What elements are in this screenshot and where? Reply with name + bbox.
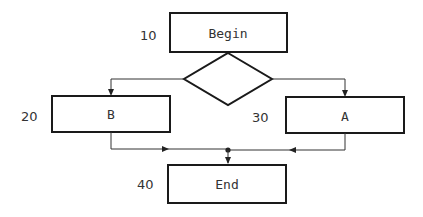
end-node: End	[168, 165, 286, 203]
flowchart: Begin 10 B 20 A 30 End 40	[0, 0, 423, 217]
arrow-head-icon	[162, 146, 169, 152]
step-number-20: 20	[21, 109, 38, 124]
decision-diamond	[184, 53, 272, 105]
a-node: A	[286, 97, 404, 133]
b-label: B	[107, 107, 115, 122]
arrow-head-icon	[289, 147, 296, 153]
arrow-head-icon	[342, 90, 348, 97]
step-number-40: 40	[137, 177, 154, 192]
begin-node: Begin	[170, 13, 287, 52]
edge-a-to-merge	[228, 133, 345, 150]
arrow-head-icon	[108, 89, 114, 96]
edge-b-to-merge	[111, 132, 228, 149]
a-label: A	[341, 109, 349, 124]
begin-label: Begin	[208, 26, 247, 41]
step-number-30: 30	[252, 110, 269, 125]
step-number-10: 10	[140, 28, 157, 43]
end-label: End	[215, 177, 238, 192]
b-node: B	[52, 96, 170, 132]
edge-decision-to-a	[272, 79, 345, 94]
edge-decision-to-b	[111, 79, 184, 93]
arrow-head-icon	[225, 157, 231, 164]
